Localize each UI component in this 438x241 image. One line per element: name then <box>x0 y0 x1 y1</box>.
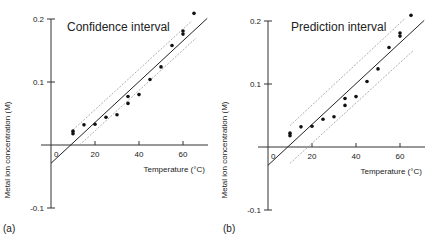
data-point <box>409 14 413 18</box>
data-point <box>115 113 119 117</box>
data-point <box>387 46 391 50</box>
y-tick-label: 0.2 <box>33 15 45 24</box>
regression-line <box>268 20 424 165</box>
data-point <box>170 44 174 48</box>
data-point <box>299 125 303 129</box>
interval-band-upper <box>73 21 192 130</box>
chart-svg: -0.10.10.22040600Temperature (°C)Metal i… <box>0 0 438 241</box>
data-point <box>181 29 185 33</box>
y-tick-label: 0.1 <box>33 78 45 87</box>
data-point <box>71 129 75 133</box>
y-axis-label: Metal ion concentration (M) <box>220 101 229 198</box>
data-point <box>159 65 163 69</box>
panel-a-confidence-interval: -0.10.10.22040600Temperature (°C)Metal i… <box>3 12 208 234</box>
data-point <box>343 97 347 101</box>
data-point <box>354 95 358 99</box>
data-point <box>181 32 185 36</box>
x-tick-label: 60 <box>179 150 188 159</box>
data-point <box>398 34 402 38</box>
x-tick-label: 20 <box>91 150 100 159</box>
data-point <box>398 31 402 35</box>
data-point <box>126 95 130 99</box>
data-point <box>376 67 380 71</box>
panel-tag: (b) <box>223 223 235 234</box>
interval-band-lower <box>290 51 413 164</box>
x-tick-label: 20 <box>308 152 317 161</box>
data-point <box>82 123 86 127</box>
x-axis-label: Temperature (°C) <box>360 167 422 176</box>
data-point <box>137 93 141 97</box>
y-axis-label: Metal ion concentration (M) <box>3 101 12 198</box>
panel-b-prediction-interval: -0.10.10.22040600Temperature (°C)Metal i… <box>220 14 425 234</box>
interval-band-lower <box>80 38 197 145</box>
panel-tag: (a) <box>3 223 15 234</box>
data-point <box>343 104 347 108</box>
data-point <box>332 115 336 119</box>
y-tick-label: -0.1 <box>247 206 261 215</box>
data-point <box>93 122 97 126</box>
panel-title: Confidence interval <box>67 20 170 34</box>
y-tick-label: 0.2 <box>250 17 262 26</box>
data-point <box>148 78 152 82</box>
x-tick-label: 40 <box>352 152 361 161</box>
regression-line <box>51 18 207 163</box>
y-tick-label: -0.1 <box>30 204 44 213</box>
data-point <box>365 80 369 84</box>
figure: -0.10.10.22040600Temperature (°C)Metal i… <box>0 0 438 241</box>
x-tick-label: 60 <box>396 152 405 161</box>
data-point <box>192 12 196 16</box>
x-tick-label: 40 <box>135 150 144 159</box>
data-point <box>288 131 292 135</box>
y-tick-label: 0.1 <box>250 80 262 89</box>
data-point <box>126 102 130 106</box>
data-point <box>310 124 314 128</box>
panel-title: Prediction interval <box>291 20 386 34</box>
data-point <box>104 115 108 119</box>
x-axis-label: Temperature (°C) <box>143 165 205 174</box>
interval-band-upper <box>290 19 404 125</box>
data-point <box>321 117 325 121</box>
